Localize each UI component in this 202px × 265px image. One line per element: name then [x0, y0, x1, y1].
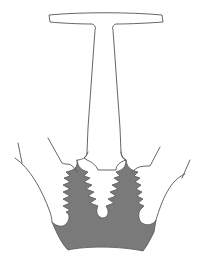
blade-body — [49, 13, 163, 170]
disk-right-post — [182, 160, 190, 178]
disk-left-post — [18, 143, 22, 163]
disk-right-tip — [132, 147, 160, 172]
fir-tree-diagram — [0, 0, 202, 265]
disk-right-curve — [156, 174, 185, 220]
disk — [52, 160, 156, 251]
disk-left-curve — [15, 158, 52, 222]
disk-left-tip — [48, 138, 77, 172]
